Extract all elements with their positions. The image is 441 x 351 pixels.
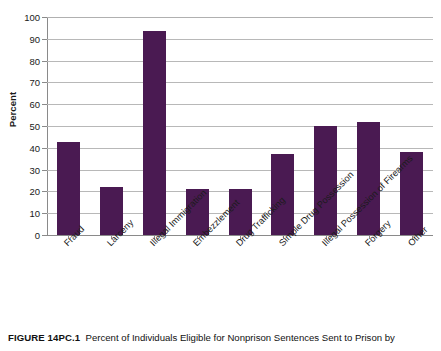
bar <box>271 154 294 235</box>
y-axis-tick <box>42 235 47 236</box>
y-axis-tick <box>42 213 47 214</box>
y-axis-tick <box>42 170 47 171</box>
bar-chart: Percent 0102030405060708090100 FraudLarc… <box>0 0 441 320</box>
bar <box>314 126 337 235</box>
gridline <box>47 82 433 83</box>
y-axis-tick <box>42 82 47 83</box>
y-axis-tick-label: 40 <box>29 142 40 153</box>
y-axis-tick <box>42 148 47 149</box>
gridline <box>47 39 433 40</box>
y-axis-title: Percent <box>7 80 18 140</box>
y-axis-tick-label: 90 <box>29 33 40 44</box>
y-axis-tick <box>42 126 47 127</box>
y-axis-tick-label: 10 <box>29 208 40 219</box>
gridline <box>47 104 433 105</box>
bar <box>57 142 80 235</box>
y-axis-tick-label: 50 <box>29 121 40 132</box>
gridline <box>47 17 433 18</box>
y-axis-tick-label: 0 <box>35 230 40 241</box>
y-axis-tick-label: 100 <box>24 12 40 23</box>
figure-caption-label: FIGURE 14PC.1 <box>8 332 80 343</box>
bar <box>357 122 380 235</box>
y-axis-tick-label: 60 <box>29 99 40 110</box>
y-axis-tick <box>42 191 47 192</box>
y-axis-tick-label: 80 <box>29 55 40 66</box>
figure-caption: FIGURE 14PC.1 Percent of Individuals Eli… <box>8 332 436 344</box>
gridline <box>47 61 433 62</box>
y-axis-tick <box>42 17 47 18</box>
y-axis-tick <box>42 61 47 62</box>
y-axis-tick <box>42 104 47 105</box>
y-axis-tick-label: 70 <box>29 77 40 88</box>
y-axis-tick-label: 20 <box>29 186 40 197</box>
bar <box>143 31 166 235</box>
y-axis-tick-label: 30 <box>29 164 40 175</box>
y-axis-tick <box>42 39 47 40</box>
figure-container: Percent 0102030405060708090100 FraudLarc… <box>0 0 441 351</box>
figure-caption-text: Percent of Individuals Eligible for Nonp… <box>86 332 395 343</box>
